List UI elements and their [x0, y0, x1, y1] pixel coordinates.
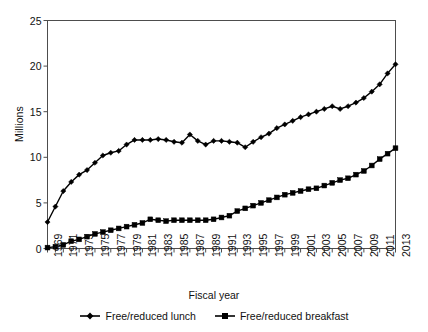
data-point-marker — [132, 222, 137, 227]
y-tick-label: 5 — [20, 197, 42, 209]
y-tick-label: 15 — [20, 106, 42, 118]
x-tick-label: 1999 — [289, 233, 301, 256]
data-point-marker — [345, 104, 350, 109]
data-point-marker — [211, 138, 216, 143]
x-tick-label: 1981 — [146, 233, 158, 256]
data-point-marker — [393, 146, 398, 151]
data-point-marker — [164, 219, 169, 224]
data-point-marker — [290, 190, 295, 195]
x-tick-label: 1989 — [210, 233, 222, 256]
data-point-marker — [180, 218, 185, 223]
x-tick-label: 1969 — [52, 233, 64, 256]
data-point-marker — [251, 203, 256, 208]
data-point-marker — [330, 104, 335, 109]
data-point-marker — [211, 217, 216, 222]
data-point-marker — [282, 192, 287, 197]
chart-legend: Free/reduced lunchFree/reduced breakfast — [0, 310, 428, 322]
chart-container: Millions 0510152025 19691971197319751977… — [0, 0, 428, 332]
data-point-marker — [53, 204, 58, 209]
x-tick-label: 2001 — [305, 233, 317, 256]
data-point-marker — [385, 151, 390, 156]
x-tick-label: 1971 — [67, 233, 79, 256]
x-tick-label: 2013 — [400, 233, 412, 256]
x-tick-label: 1987 — [194, 233, 206, 256]
data-point-marker — [203, 142, 208, 147]
data-point-marker — [156, 136, 161, 141]
data-point-marker — [108, 150, 113, 155]
data-point-marker — [148, 137, 153, 142]
data-point-marker — [369, 163, 374, 168]
x-tick-label: 1985 — [178, 233, 190, 256]
y-tick-label: 25 — [20, 15, 42, 27]
diamond-marker-icon — [79, 311, 101, 321]
x-axis-title: Fiscal year — [0, 289, 428, 301]
data-point-marker — [235, 209, 240, 214]
data-point-marker — [282, 122, 287, 127]
plot-area — [0, 0, 428, 332]
data-point-marker — [164, 137, 169, 142]
x-tick-label: 1993 — [241, 233, 253, 256]
data-point-marker — [354, 172, 359, 177]
x-tick-label: 2007 — [352, 233, 364, 256]
data-point-marker — [274, 195, 279, 200]
data-point-marker — [346, 176, 351, 181]
x-tick-label: 1977 — [115, 233, 127, 256]
series-lunch — [45, 62, 398, 225]
data-point-marker — [322, 183, 327, 188]
data-point-marker — [306, 187, 311, 192]
data-point-marker — [148, 217, 153, 222]
data-point-marker — [124, 224, 129, 229]
data-point-marker — [140, 137, 145, 142]
data-point-marker — [227, 139, 232, 144]
data-point-marker — [377, 157, 382, 162]
x-tick-label: 1995 — [257, 233, 269, 256]
x-tick-label: 1997 — [273, 233, 285, 256]
data-point-marker — [172, 218, 177, 223]
x-tick-label: 1991 — [226, 233, 238, 256]
data-point-marker — [314, 109, 319, 114]
y-tick-label: 20 — [20, 60, 42, 72]
square-marker-icon — [214, 311, 236, 321]
data-point-marker — [219, 138, 224, 143]
plot-frame — [48, 21, 396, 249]
data-point-marker — [298, 115, 303, 120]
data-point-marker — [187, 218, 192, 223]
data-point-marker — [156, 218, 161, 223]
data-point-marker — [290, 118, 295, 123]
series-layer — [45, 62, 398, 250]
data-point-marker — [203, 218, 208, 223]
data-point-marker — [298, 189, 303, 194]
x-tick-label: 2009 — [368, 233, 380, 256]
x-tick-label: 1973 — [83, 233, 95, 256]
data-point-marker — [227, 213, 232, 218]
data-point-marker — [306, 112, 311, 117]
data-point-marker — [108, 228, 113, 233]
data-point-marker — [116, 226, 121, 231]
legend-entry-lunch[interactable]: Free/reduced lunch — [79, 310, 195, 322]
data-point-marker — [338, 178, 343, 183]
data-point-marker — [338, 106, 343, 111]
x-tick-label: 2011 — [384, 234, 396, 257]
y-tick-label: 0 — [20, 243, 42, 255]
data-point-marker — [361, 169, 366, 174]
data-point-marker — [330, 180, 335, 185]
x-tick-label: 1979 — [131, 233, 143, 256]
data-point-marker — [219, 215, 224, 220]
x-tick-label: 2003 — [320, 233, 332, 256]
data-point-marker — [45, 245, 50, 250]
data-point-marker — [195, 218, 200, 223]
data-point-marker — [259, 201, 264, 206]
data-point-marker — [322, 106, 327, 111]
legend-entry-breakfast[interactable]: Free/reduced breakfast — [214, 310, 349, 322]
y-tick-label: 10 — [20, 151, 42, 163]
x-tick-label: 1983 — [162, 233, 174, 256]
x-tick-label: 2005 — [336, 233, 348, 256]
data-point-marker — [171, 139, 176, 144]
legend-label: Free/reduced lunch — [105, 310, 195, 322]
data-point-marker — [140, 221, 145, 226]
x-tick-label: 1975 — [99, 233, 111, 256]
data-point-marker — [314, 186, 319, 191]
legend-label: Free/reduced breakfast — [240, 310, 349, 322]
data-point-marker — [267, 198, 272, 203]
data-point-marker — [243, 206, 248, 211]
